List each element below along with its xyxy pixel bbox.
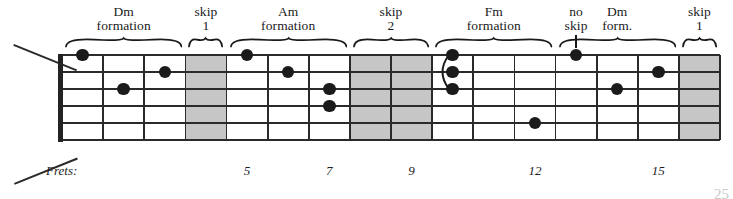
fret-wire-3 bbox=[143, 55, 145, 140]
fret-dot bbox=[323, 83, 335, 95]
fret-dot bbox=[76, 49, 88, 61]
fretboard-figure: Dmformationskip1Amformationskip2Fmformat… bbox=[0, 0, 733, 199]
fret-dot bbox=[446, 66, 458, 78]
fret-dot bbox=[446, 49, 458, 61]
fret-number-12: 12 bbox=[515, 163, 555, 179]
fret-dot bbox=[529, 117, 541, 129]
fret-dot bbox=[117, 83, 129, 95]
fret-wire-6 bbox=[267, 55, 269, 140]
fret-wire-2 bbox=[102, 55, 104, 140]
fret-number-7: 7 bbox=[309, 163, 349, 179]
fret-cell-shaded-16 bbox=[679, 55, 720, 140]
fret-wire-10 bbox=[431, 55, 433, 140]
fret-dot bbox=[241, 49, 253, 61]
fret-number-5: 5 bbox=[227, 163, 267, 179]
fret-cell-shaded-4 bbox=[185, 55, 226, 140]
fret-dot bbox=[282, 66, 294, 78]
nut bbox=[58, 54, 62, 142]
fret-wire-13 bbox=[555, 55, 557, 140]
fret-wire-14 bbox=[596, 55, 598, 140]
fret-wire-4 bbox=[185, 55, 187, 140]
fret-wire-7 bbox=[308, 55, 310, 140]
fret-wire-17 bbox=[719, 55, 721, 140]
fret-wire-12 bbox=[514, 55, 516, 140]
fret-wire-5 bbox=[226, 55, 228, 140]
fret-cell-shaded-8 bbox=[350, 55, 391, 140]
fret-cell-shaded-9 bbox=[391, 55, 432, 140]
fret-wire-11 bbox=[472, 55, 474, 140]
fret-dot bbox=[323, 100, 335, 112]
fret-dot bbox=[159, 66, 171, 78]
fret-wire-16 bbox=[678, 55, 680, 140]
fret-number-15: 15 bbox=[638, 163, 678, 179]
fret-dot bbox=[652, 66, 664, 78]
fret-wire-9 bbox=[390, 55, 392, 140]
fret-wire-15 bbox=[637, 55, 639, 140]
fretboard bbox=[0, 0, 720, 144]
frets-caption: Frets: bbox=[46, 163, 77, 179]
fret-dot bbox=[570, 49, 582, 61]
fret-dot bbox=[611, 83, 623, 95]
fret-wire-8 bbox=[349, 55, 351, 140]
fret-dot bbox=[446, 83, 458, 95]
fret-number-9: 9 bbox=[392, 163, 432, 179]
page-number: 25 bbox=[714, 186, 729, 199]
